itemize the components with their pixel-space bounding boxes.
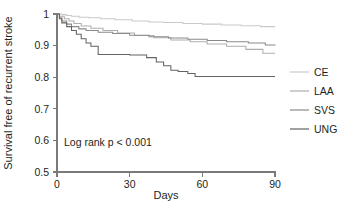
y-tick-label-4: 0.9 [34,39,49,51]
survival-chart-figure: 0.50.60.70.80.91 0306090 Days Survival f… [0,0,349,214]
survival-curve-svs [57,14,275,46]
survival-curve-ce [57,14,275,27]
y-axis-title: Survival free of recurrent stroke [2,16,14,169]
survival-curve-ung [57,14,275,77]
x-tick-label-1: 30 [124,178,136,190]
legend-label-svs: SVS [314,104,335,116]
y-tick-label-5: 1 [43,8,49,20]
legend-label-ung: UNG [314,123,337,135]
x-tick-label-2: 60 [196,178,208,190]
legend-label-laa: LAA [314,85,334,97]
x-tick-label-0: 0 [54,178,60,190]
x-axis-ticks [57,172,275,177]
y-tick-label-1: 0.6 [34,134,49,146]
survival-curve-laa [57,14,275,53]
x-axis-title: Days [153,189,179,201]
legend-label-ce: CE [314,66,329,78]
survival-curves-group [57,14,275,77]
legend: CELAASVSUNG [290,66,337,135]
x-tick-label-3: 90 [269,178,281,190]
y-tick-label-2: 0.7 [34,103,49,115]
y-tick-label-3: 0.8 [34,71,49,83]
chart-canvas: 0.50.60.70.80.91 0306090 Days Survival f… [0,0,349,214]
y-tick-label-0: 0.5 [34,166,49,178]
y-axis-tick-labels: 0.50.60.70.80.91 [34,8,49,178]
y-axis-ticks [53,14,57,172]
log-rank-annotation: Log rank p < 0.001 [64,136,152,148]
